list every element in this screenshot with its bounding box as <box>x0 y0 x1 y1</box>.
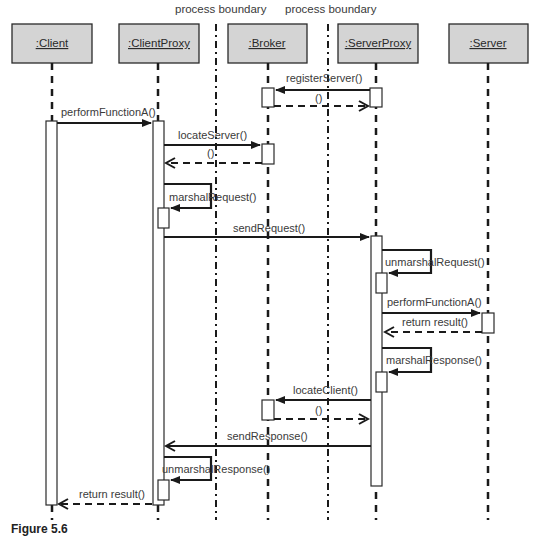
activation-serverproxy-unmarshal <box>376 273 387 293</box>
message-label: unmarshalResponse() <box>162 463 270 475</box>
message-label: marshalResponse() <box>386 354 482 366</box>
object-broker: :Broker <box>228 24 307 63</box>
message-label: unmarshalRequest() <box>385 256 485 268</box>
activation-serverproxy-marshal <box>376 372 387 392</box>
message-label: return result() <box>79 488 145 500</box>
message-label: sendRequest() <box>233 222 305 234</box>
message-label: registerServer() <box>286 72 362 84</box>
message-label: () <box>315 404 322 416</box>
activation-broker-locateserver <box>262 144 274 164</box>
message-label: performFunctionA() <box>61 106 156 118</box>
activation-clientproxy-marshal <box>158 208 169 228</box>
object-server: :Server <box>449 24 528 63</box>
object-label: :Client <box>36 37 69 49</box>
activation-client <box>46 121 57 505</box>
sequence-diagram: process boundary process boundary :Clien… <box>0 0 538 540</box>
activation-broker-register <box>262 88 274 107</box>
activation-server <box>482 313 494 333</box>
message-label: () <box>315 92 322 104</box>
message-label: locateClient() <box>293 384 358 396</box>
figure-caption: Figure 5.6 <box>11 522 68 536</box>
message-label: locateServer() <box>178 129 247 141</box>
message-label: () <box>207 147 214 159</box>
activation-clientproxy <box>153 121 164 505</box>
activation-clientproxy-unmarshal <box>158 480 169 500</box>
object-label: :Broker <box>248 37 285 49</box>
object-label: :ServerProxy <box>345 37 412 49</box>
message-label: performFunctionA() <box>387 296 482 308</box>
process-boundary-label: process boundary <box>285 3 377 15</box>
object-clientproxy: :ClientProxy <box>119 24 199 63</box>
activation-serverproxy-register <box>370 88 382 107</box>
process-boundary-label: process boundary <box>175 3 267 15</box>
activation-broker-locateclient <box>262 400 274 420</box>
object-label: :Server <box>469 37 506 49</box>
message-label: return result() <box>402 316 468 328</box>
message-label: sendResponse() <box>227 430 308 442</box>
object-label: :ClientProxy <box>128 37 190 49</box>
object-serverproxy: :ServerProxy <box>338 24 418 63</box>
object-client: :Client <box>12 24 92 63</box>
message-label: marshalRequest() <box>169 191 256 203</box>
